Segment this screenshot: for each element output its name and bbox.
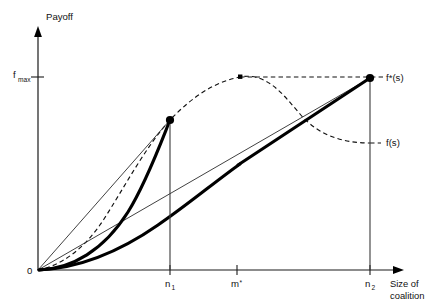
y-axis-arrowhead xyxy=(34,26,42,37)
labels-group: Payoff f max 0 n 1 m * n 2 f*(s) f(s) Si… xyxy=(13,11,424,301)
chords-group xyxy=(38,78,370,270)
chart-canvas: Payoff f max 0 n 1 m * n 2 f*(s) f(s) Si… xyxy=(0,0,434,306)
point-marker-n1 xyxy=(166,116,174,124)
y-tick-label-fmax-base: f xyxy=(13,69,16,80)
y-axis-title: Payoff xyxy=(46,11,73,22)
axes-group xyxy=(31,26,404,275)
origin-label: 0 xyxy=(27,265,32,276)
x-axis-title-line2: coalition xyxy=(390,290,424,301)
peak-marker xyxy=(238,75,242,79)
payoff-coalition-figure: Payoff f max 0 n 1 m * n 2 f*(s) f(s) Si… xyxy=(0,0,434,306)
x-tick-label-mstar-sub: * xyxy=(240,279,243,286)
x-tick-label-n1-base: n xyxy=(165,278,170,289)
markers-group xyxy=(166,74,374,124)
f-star-lower-branch-path xyxy=(39,164,240,270)
annotation-f-star-s: f*(s) xyxy=(386,72,404,83)
point-marker-n2 xyxy=(366,74,374,82)
annotation-f-s: f(s) xyxy=(386,137,400,148)
x-tick-label-mstar-base: m xyxy=(231,278,239,289)
f-star-chord-to-n2 xyxy=(238,78,370,165)
x-tick-label-n2-sub: 2 xyxy=(372,284,376,291)
x-axis-arrowhead xyxy=(393,266,404,274)
x-tick-label-n1-sub: 1 xyxy=(172,284,176,291)
drop-lines-group xyxy=(170,78,370,270)
y-tick-label-fmax-sub: max xyxy=(18,76,31,83)
chord-origin-to-n2 xyxy=(38,78,370,270)
chord-origin-to-n1 xyxy=(38,120,170,270)
x-axis-title-line1: Size of xyxy=(390,278,419,289)
x-tick-label-n2-base: n xyxy=(365,278,370,289)
